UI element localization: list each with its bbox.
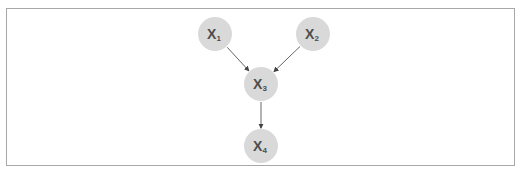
node-subscript: 4 — [262, 146, 267, 155]
edge-x2-to-x3 — [274, 46, 300, 71]
edge-x1-to-x3 — [227, 47, 249, 71]
node-x3: X3 — [244, 67, 278, 101]
bayesian-network-diagram: X1X2X3X4 — [0, 0, 524, 177]
node-x2: X2 — [296, 17, 330, 51]
node-subscript: 2 — [314, 34, 319, 43]
node-x4: X4 — [244, 129, 278, 163]
node-subscript: 1 — [216, 34, 221, 43]
node-subscript: 3 — [262, 84, 267, 93]
node-x1: X1 — [198, 17, 232, 51]
